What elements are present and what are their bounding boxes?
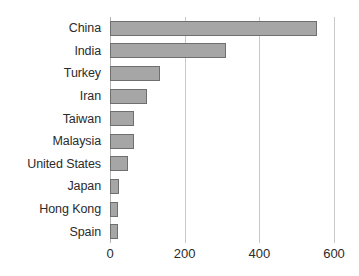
category-label-japan: Japan [0,175,106,198]
bar-hong-kong [110,202,118,217]
xtick-label-400: 400 [248,246,270,261]
bar-row [110,153,334,176]
bar-spain [110,224,118,239]
bar-japan [110,179,119,194]
xtick-label-600: 600 [323,246,345,261]
bar-row [110,175,334,198]
category-label-spain: Spain [0,220,106,243]
bar-row [110,130,334,153]
category-label-taiwan: Taiwan [0,107,106,130]
bar-row [110,198,334,221]
bar-turkey [110,66,160,81]
value-axis-tick-labels: 0 200 400 600 [110,246,334,270]
bar-iran [110,89,147,104]
category-label-china: China [0,17,106,40]
xtick-label-0: 0 [106,246,113,261]
category-label-iran: Iran [0,85,106,108]
category-label-hong-kong: Hong Kong [0,198,106,221]
bar-row [110,107,334,130]
category-label-india: India [0,40,106,63]
bar-chart: China India Turkey Iran Taiwan Malaysia … [0,0,359,276]
xtick-label-200: 200 [174,246,196,261]
bar-malaysia [110,134,134,149]
bar-row [110,62,334,85]
bar-row [110,17,334,40]
category-axis-labels: China India Turkey Iran Taiwan Malaysia … [0,17,106,243]
bar-series [110,17,334,243]
bar-row [110,85,334,108]
plot-area [110,17,334,243]
category-label-united-states: United States [0,153,106,176]
bar-united-states [110,156,128,171]
bar-india [110,43,226,58]
category-label-turkey: Turkey [0,62,106,85]
gridline-600 [334,17,335,243]
bar-row [110,220,334,243]
bar-row [110,40,334,63]
bar-taiwan [110,111,134,126]
bar-china [110,21,317,36]
category-label-malaysia: Malaysia [0,130,106,153]
